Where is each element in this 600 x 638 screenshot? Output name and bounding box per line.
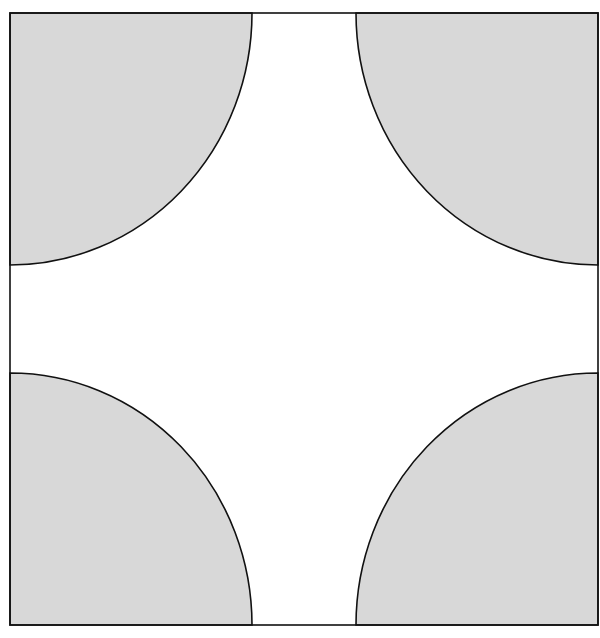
quarter-circle-bottom-left bbox=[10, 373, 252, 625]
quarter-circle-bottom-right bbox=[356, 373, 598, 625]
quarter-circle-top-right bbox=[356, 13, 598, 265]
square-quarter-circles-diagram bbox=[0, 0, 600, 638]
quarter-circle-top-left bbox=[10, 13, 252, 265]
